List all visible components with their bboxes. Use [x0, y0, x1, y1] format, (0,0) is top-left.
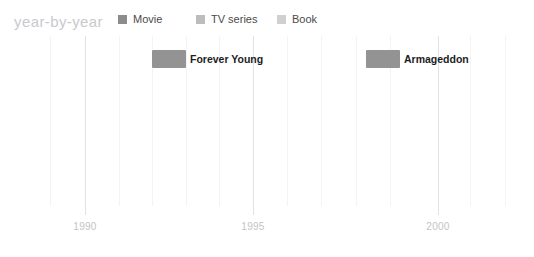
legend-swatch-icon [118, 15, 127, 24]
legend-item-tv-series[interactable]: TV series [196, 14, 257, 25]
x-axis-tick-label: 2000 [426, 221, 449, 232]
chart-canvas: year-by-year MovieTV seriesBook 19901995… [0, 0, 534, 257]
bar-item[interactable]: Armageddon [0, 50, 534, 68]
legend-item-label: Book [292, 14, 317, 25]
legend-item-book[interactable]: Book [277, 14, 317, 25]
x-axis-tick-label: 1995 [241, 221, 264, 232]
legend-swatch-icon [196, 15, 205, 24]
legend-item-label: Movie [133, 14, 162, 25]
legend-item-movie[interactable]: Movie [118, 14, 162, 25]
page-title: year-by-year [14, 13, 103, 30]
legend-item-label: TV series [211, 14, 257, 25]
legend-swatch-icon [277, 15, 286, 24]
chart-header: year-by-year MovieTV seriesBook [0, 0, 534, 36]
bar-label: Armageddon [404, 50, 469, 68]
x-axis-tick-label: 1990 [73, 221, 96, 232]
bar-rect[interactable] [366, 50, 400, 68]
plot-area: 199019952000 Forever YoungArmageddon [0, 36, 534, 257]
